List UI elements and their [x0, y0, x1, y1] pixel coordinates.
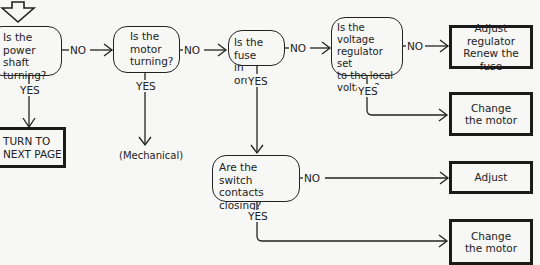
action-turn-to-next-page: TURN TO NEXT PAGE — [0, 127, 66, 168]
action-change-motor-2: Change the motor — [449, 219, 533, 265]
decision-text: Are the switch contacts closing? — [219, 161, 264, 211]
decision-voltage-regulator-set: Is the voltage regulator set to the loca… — [331, 17, 403, 76]
edge-label-yes: YES — [357, 85, 379, 97]
action-text: Adjust — [475, 171, 508, 184]
action-text: TURN TO NEXT PAGE — [3, 135, 62, 160]
action-adjust-regulator-renew-fuse: Adjust regulator Renew the fuse — [449, 25, 533, 69]
edge-label-no: NO — [303, 172, 321, 184]
action-text: Change the motor — [465, 102, 517, 127]
start-arrow-icon — [2, 2, 34, 22]
decision-text: Is the motor turning? — [130, 30, 173, 67]
decision-text: Is the power shaft turning? — [3, 31, 46, 81]
edge-label-no: NO — [289, 42, 307, 54]
action-adjust: Adjust — [449, 161, 533, 194]
edge-label-yes: YES — [247, 75, 269, 87]
edge-label-no: NO — [406, 40, 424, 52]
action-text: Change the motor — [465, 230, 517, 255]
decision-motor-turning: Is the motor turning? — [113, 26, 180, 73]
edge-label-yes: YES — [135, 80, 157, 92]
action-change-motor-1: Change the motor — [449, 92, 533, 136]
decision-power-shaft-turning: Is the power shaft turning? — [0, 26, 62, 76]
edge-label-no: NO — [69, 44, 87, 56]
edge-label-no: NO — [183, 44, 201, 56]
note-mechanical: (Mechanical) — [118, 150, 184, 162]
edge-label-yes: YES — [19, 84, 41, 96]
decision-fuse-in-order: Is the fuse in order? — [228, 30, 285, 66]
decision-switch-contacts-closing: Are the switch contacts closing? — [212, 155, 300, 202]
edge-label-yes: YES — [247, 210, 269, 222]
action-text: Adjust regulator Renew the fuse — [452, 22, 530, 72]
